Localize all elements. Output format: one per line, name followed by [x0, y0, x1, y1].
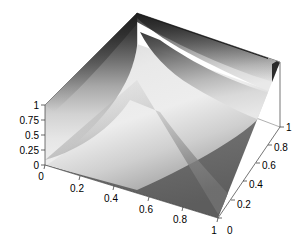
x-tick-label-1: 0.2 — [70, 183, 84, 194]
x-tick-label-3: 0.6 — [139, 204, 153, 215]
y-tick-label-2: 0.4 — [249, 179, 263, 190]
z-tick-label-075: 0.75 — [20, 115, 40, 126]
z-axis-labels: 1 0.75 0.5 0.25 0 — [20, 100, 40, 171]
plot-canvas: 0 0.2 0.4 0.6 0.8 1 0 0.2 0.4 0.6 0.8 1 — [0, 0, 307, 248]
surface-crest-jagged-edge — [272, 61, 280, 106]
x-tick-label-4: 0.8 — [173, 214, 187, 225]
y-tick-label-1: 0.2 — [237, 199, 251, 210]
x-tick-label-0: 0 — [38, 171, 44, 182]
y-tick-label-5: 1 — [286, 122, 292, 133]
x-tick-label-2: 0.4 — [104, 193, 118, 204]
y-tick-label-0: 0 — [227, 225, 233, 236]
z-tick-label-1: 1 — [33, 100, 39, 111]
y-tick-label-3: 0.6 — [262, 160, 276, 171]
x-tick-label-5: 1 — [211, 225, 217, 236]
surface-plot-figure: 0 0.2 0.4 0.6 0.8 1 0 0.2 0.4 0.6 0.8 1 — [0, 0, 307, 248]
z-axis-ticks — [41, 105, 45, 165]
z-tick-label-05: 0.5 — [25, 130, 39, 141]
y-tick-label-4: 0.8 — [274, 142, 288, 153]
z-tick-label-025: 0.25 — [20, 145, 40, 156]
z-tick-label-0: 0 — [33, 160, 39, 171]
